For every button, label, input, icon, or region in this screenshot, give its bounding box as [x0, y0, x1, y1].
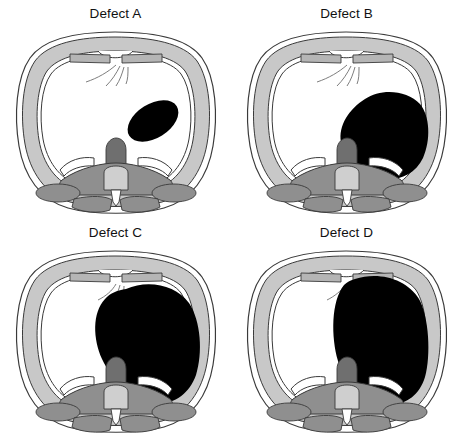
esophagus-trachea [337, 357, 357, 385]
muscle-left-lateral [267, 403, 311, 421]
esophagus-trachea [106, 357, 126, 385]
panel-title-defect-c: Defect C [0, 225, 231, 241]
panel-defect-d: Defect D [231, 219, 462, 438]
muscle-right-posterior [351, 196, 391, 212]
muscle-left-posterior [303, 415, 343, 432]
muscle-left-lateral [267, 184, 311, 202]
muscle-left-posterior [303, 196, 343, 212]
vertebral-body [335, 385, 359, 409]
vertebral-body [335, 166, 359, 190]
vertebral-body [104, 166, 128, 190]
defect-panel-figure: Defect A [0, 0, 462, 438]
muscle-right-lateral [152, 184, 196, 202]
muscle-left-lateral [36, 184, 80, 202]
thorax-diagram-defect-d [231, 243, 462, 438]
esophagus-trachea [106, 138, 126, 166]
panel-title-defect-b: Defect B [231, 6, 462, 22]
panel-defect-b: Defect B [231, 0, 462, 219]
muscle-right-lateral [383, 403, 427, 421]
muscle-right-posterior [120, 196, 160, 212]
muscle-right-lateral [383, 184, 427, 202]
thorax-diagram-defect-b [231, 24, 462, 219]
thorax-diagram-defect-a [0, 24, 231, 219]
thorax-cross-section [248, 251, 447, 432]
panel-title-defect-d: Defect D [231, 225, 462, 241]
muscle-right-posterior [351, 415, 391, 432]
muscle-left-lateral [36, 403, 80, 421]
muscle-right-posterior [120, 415, 160, 432]
panel-defect-c: Defect C [0, 219, 231, 438]
thorax-cross-section [17, 32, 216, 213]
vertebral-body [104, 385, 128, 409]
thorax-cross-section [248, 32, 447, 213]
panel-title-defect-a: Defect A [0, 6, 231, 22]
panel-defect-a: Defect A [0, 0, 231, 219]
muscle-right-lateral [152, 403, 196, 421]
esophagus-trachea [337, 138, 357, 166]
muscle-left-posterior [72, 196, 112, 212]
muscle-left-posterior [72, 415, 112, 432]
thorax-cross-section [17, 251, 216, 432]
thorax-diagram-defect-c [0, 243, 231, 438]
